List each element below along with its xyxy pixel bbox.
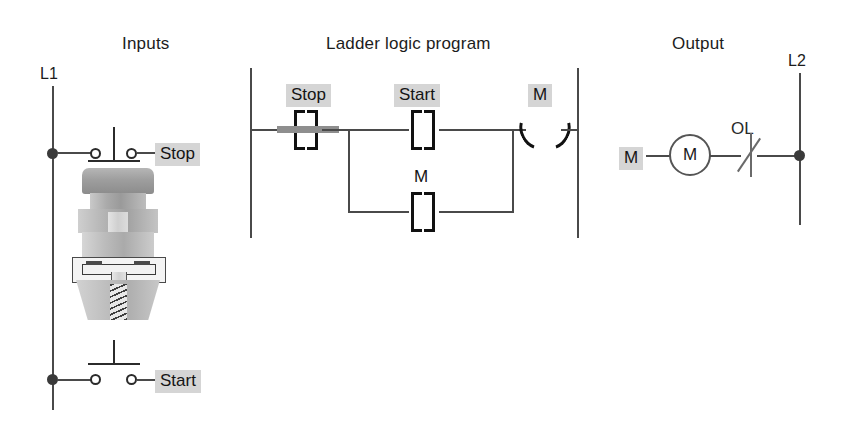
start-terminal-left-icon [90, 374, 101, 385]
wire-coil-to-rail [561, 129, 578, 131]
motor-label: M [683, 145, 697, 165]
stop-input-label: Stop [155, 143, 200, 166]
pushbutton-switch-illustration [60, 168, 176, 320]
ladder-start-contact-label: Start [394, 84, 440, 107]
stop-actuator-stem-icon [113, 127, 115, 161]
ladder-right-rail [577, 68, 579, 238]
stop-wire-left [57, 152, 91, 154]
ladder-stop-contact-label: Stop [286, 84, 331, 107]
ladder-start-contact-no[interactable] [406, 110, 440, 150]
wire-branch-to-sealin [349, 211, 409, 213]
wire-start-to-join [439, 129, 514, 131]
ladder-coil-label: M [528, 84, 552, 107]
motor-symbol: M [669, 134, 711, 176]
l2-rail-label: L2 [788, 52, 806, 70]
wire-branch-to-start [349, 129, 409, 131]
start-actuator-stem-icon [113, 340, 115, 364]
l2-power-rail [799, 73, 801, 225]
ladder-sealin-contact-label: M [414, 167, 428, 187]
output-section-title: Output [672, 34, 724, 54]
wire-rail-to-stop [251, 129, 279, 131]
branch-left-vertical [348, 129, 350, 213]
wire-stop-to-branch [322, 129, 350, 131]
stop-terminal-left-icon [90, 148, 101, 159]
l1-rail-label: L1 [40, 65, 58, 83]
l2-junction-dot [794, 150, 805, 161]
stop-wire-right [137, 152, 155, 154]
start-wire-right [137, 379, 155, 381]
output-contact-label-m: M [619, 147, 643, 170]
ladder-left-rail [250, 68, 252, 238]
ladder-section-title: Ladder logic program [326, 34, 491, 54]
ladder-sealin-contact-no[interactable] [406, 192, 440, 232]
start-input-label: Start [155, 370, 201, 393]
branch-right-vertical [512, 129, 514, 213]
wire-sealin-to-join [439, 211, 513, 213]
ladder-logic-diagram: Inputs L1 Stop [0, 0, 849, 429]
stop-terminal-right-icon [126, 148, 137, 159]
start-wire-left [57, 379, 91, 381]
inputs-section-title: Inputs [122, 34, 170, 54]
start-terminal-right-icon [126, 374, 137, 385]
l1-power-rail [52, 86, 54, 410]
